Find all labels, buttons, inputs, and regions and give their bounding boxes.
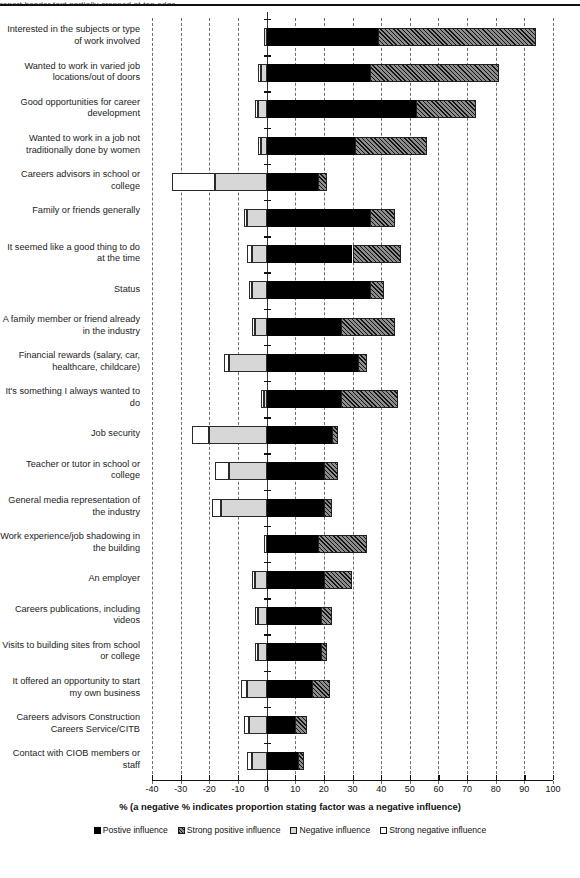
x-tick-label: 100: [538, 784, 568, 794]
bar-segment-strong_positive: [353, 245, 402, 263]
x-tick-label: 80: [481, 784, 511, 794]
bar-segment-strong_positive: [321, 643, 327, 661]
bar-segment-negative: [258, 643, 267, 661]
category-labels: Interested in the subjects or type of wo…: [0, 10, 140, 806]
bar-segment-negative: [252, 752, 266, 770]
zero-tick-mark: [264, 272, 271, 273]
category-label: Careers publications, including videos: [0, 604, 140, 627]
zero-tick-mark: [264, 526, 271, 527]
bar-segment-positive: [267, 64, 370, 82]
bar-segment-positive: [267, 680, 313, 698]
bar-segment-negative: [215, 173, 267, 191]
bar-row: [140, 607, 570, 625]
x-axis-title: % (a negative % indicates proportion sta…: [0, 801, 580, 812]
x-tick-label: -20: [194, 784, 224, 794]
bar-segment-strong_positive: [321, 607, 332, 625]
bar-segment-strong_negative: [244, 209, 247, 227]
category-label: Teacher or tutor in school or college: [0, 459, 140, 482]
category-label: Careers advisors Construction Careers Se…: [0, 712, 140, 735]
bar-segment-strong_positive: [298, 752, 304, 770]
bar-segment-positive: [267, 28, 379, 46]
category-label: Careers advisors in school or college: [0, 169, 140, 192]
bar-row: [140, 571, 570, 589]
bar-segment-positive: [267, 137, 356, 155]
plot-area: Interested in the subjects or type of wo…: [0, 10, 580, 806]
x-tick-label: 70: [452, 784, 482, 794]
x-tick: [295, 775, 296, 780]
zero-tick-mark: [264, 381, 271, 382]
bar-segment-negative: [252, 281, 266, 299]
bar-segment-strong_negative: [247, 752, 253, 770]
x-tick-label: 50: [395, 784, 425, 794]
x-tick-label: -10: [223, 784, 253, 794]
bar-segment-strong_negative: [192, 426, 209, 444]
x-tick: [496, 775, 497, 780]
bar-segment-negative: [258, 607, 267, 625]
zero-tick-mark: [264, 671, 271, 672]
zero-tick-mark: [264, 453, 271, 454]
bar-segment-positive: [267, 643, 321, 661]
bars-panel: -40-30-20-100102030405060708090100: [140, 10, 570, 806]
zero-tick-mark: [264, 309, 271, 310]
bar-segment-strong_positive: [358, 354, 367, 372]
bar-segment-strong_positive: [295, 716, 306, 734]
bar-row: [140, 462, 570, 480]
category-label: Wanted to work in varied job locations/o…: [0, 61, 140, 84]
x-tick-label: -40: [137, 784, 167, 794]
zero-tick-mark: [264, 91, 271, 92]
bar-segment-positive: [267, 571, 324, 589]
bar-row: [140, 716, 570, 734]
legend-item-positive: Postive influence: [94, 825, 168, 835]
bar-segment-negative: [255, 318, 266, 336]
bar-segment-negative: [229, 462, 266, 480]
x-tick: [553, 775, 554, 780]
bar-segment-strong_positive: [312, 680, 329, 698]
x-tick-label: 10: [280, 784, 310, 794]
zero-tick-mark: [264, 345, 271, 346]
bar-segment-strong_positive: [370, 64, 499, 82]
bar-segment-positive: [267, 209, 370, 227]
bar-segment-negative: [264, 390, 267, 408]
bar-segment-negative: [264, 28, 267, 46]
category-label: Good opportunities for career developmen…: [0, 97, 140, 120]
x-tick: [467, 775, 468, 780]
bar-segment-positive: [267, 499, 324, 517]
category-label: Visits to building sites from school or …: [0, 640, 140, 663]
bar-segment-negative: [247, 680, 267, 698]
bar-row: [140, 209, 570, 227]
x-tick-label: 30: [338, 784, 368, 794]
x-tick-label: 0: [252, 784, 282, 794]
category-label: It offered an opportunity to start my ow…: [0, 676, 140, 699]
zero-tick-mark: [264, 634, 271, 635]
bar-row: [140, 643, 570, 661]
x-tick: [324, 775, 325, 780]
bar-segment-positive: [267, 354, 359, 372]
category-label: It's something I always wanted to do: [0, 386, 140, 409]
bar-segment-positive: [267, 100, 416, 118]
legend-label: Negative influence: [299, 825, 370, 835]
bar-row: [140, 28, 570, 46]
x-tick-label: 40: [366, 784, 396, 794]
bar-segment-positive: [267, 390, 341, 408]
bar-segment-negative: [252, 245, 266, 263]
bar-segment-strong_positive: [318, 535, 367, 553]
category-label: Family or friends generally: [0, 205, 140, 217]
zero-tick-mark: [264, 707, 271, 708]
bar-row: [140, 680, 570, 698]
bar-segment-negative: [249, 716, 266, 734]
legend-label: Strong positive influence: [187, 825, 281, 835]
bar-segment-positive: [267, 607, 321, 625]
x-tick-label: 90: [509, 784, 539, 794]
bar-segment-strong_negative: [255, 607, 258, 625]
legend-item-strong_positive: Strong positive influence: [178, 825, 281, 835]
bar-segment-strong_negative: [215, 462, 229, 480]
stacked-bar-chart: report header text partially cropped at …: [0, 0, 580, 878]
zero-tick-mark: [264, 200, 271, 201]
zero-tick-mark: [264, 598, 271, 599]
category-label: Financial rewards (salary, car, healthca…: [0, 350, 140, 373]
category-label: General media representation of the indu…: [0, 495, 140, 518]
x-tick: [209, 775, 210, 780]
bar-row: [140, 752, 570, 770]
bar-segment-strong_positive: [324, 499, 333, 517]
bar-segment-strong_positive: [355, 137, 427, 155]
